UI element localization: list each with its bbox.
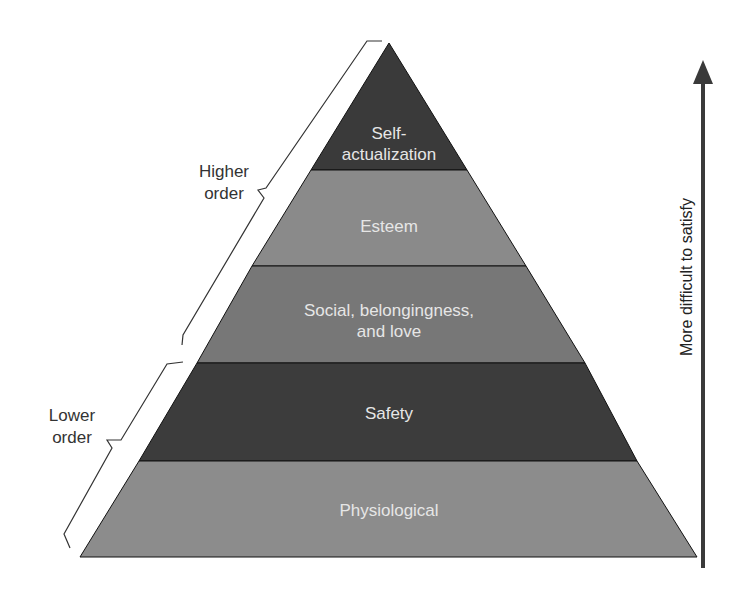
higher-order-label: Higher order bbox=[199, 161, 249, 205]
label-line: Physiological bbox=[339, 500, 438, 521]
label-line: Higher bbox=[199, 161, 249, 183]
label-line: Social, belongingness, bbox=[304, 300, 474, 321]
difficulty-arrow-head-icon bbox=[693, 60, 713, 84]
label-line: Lower bbox=[49, 405, 95, 427]
label-line: Safety bbox=[365, 403, 413, 424]
label-safety: Safety bbox=[365, 403, 413, 424]
label-line: order bbox=[199, 183, 249, 205]
difficulty-axis-label: More difficult to satisfy bbox=[678, 177, 696, 377]
lower-order-label: Lower order bbox=[49, 405, 95, 449]
label-line: order bbox=[49, 427, 95, 449]
label-line: actualization bbox=[342, 144, 437, 165]
label-line: Esteem bbox=[360, 216, 418, 237]
label-self-actualization: Self- actualization bbox=[342, 123, 437, 165]
label-line: Self- bbox=[342, 123, 437, 144]
label-social: Social, belongingness, and love bbox=[304, 300, 474, 342]
label-esteem: Esteem bbox=[360, 216, 418, 237]
label-physiological: Physiological bbox=[339, 500, 438, 521]
label-line: and love bbox=[304, 321, 474, 342]
